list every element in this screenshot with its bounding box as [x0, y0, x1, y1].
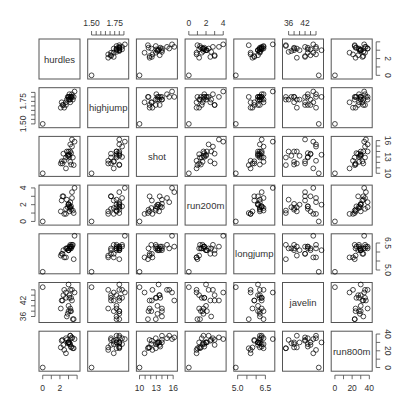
- scatter-panel: [136, 185, 177, 225]
- tick-label: 0: [383, 73, 393, 78]
- diagonal-label-panel: hurdles: [39, 39, 80, 79]
- data-point: [142, 290, 147, 295]
- data-point: [297, 248, 302, 253]
- scatter-panel: [283, 185, 324, 225]
- data-point: [283, 242, 288, 247]
- data-point: [194, 100, 199, 105]
- bottom-x-axis: 101316: [135, 375, 178, 393]
- scatter-panel: [88, 331, 129, 371]
- data-point: [347, 255, 352, 260]
- data-point: [311, 139, 316, 144]
- tick-label: 16: [168, 383, 178, 393]
- data-point: [356, 194, 361, 199]
- left-y-axis: 1.501.75: [18, 92, 35, 132]
- scatter-panel: [88, 136, 129, 176]
- data-point: [333, 171, 338, 176]
- tick-label: 42: [18, 296, 28, 306]
- data-point: [246, 95, 251, 100]
- scatter-panel: [233, 185, 275, 225]
- data-point: [61, 293, 66, 298]
- tick-label: 20: [383, 346, 393, 356]
- right-y-axis: 5.06.5: [376, 237, 393, 276]
- data-point: [137, 365, 142, 370]
- data-point: [122, 290, 127, 295]
- scatter-panel: [136, 88, 177, 128]
- tick-label: 2: [383, 56, 393, 61]
- tick-label: 5.0: [232, 383, 244, 393]
- data-point: [197, 293, 202, 298]
- data-point: [261, 317, 266, 322]
- tick-label: 0: [383, 365, 393, 370]
- scatter-panel: [331, 282, 372, 322]
- tick-label: 20: [347, 383, 357, 393]
- data-point: [89, 219, 94, 224]
- data-point: [204, 303, 209, 308]
- right-y-axis: 02040: [376, 329, 393, 370]
- tick-label: 5.0: [383, 264, 393, 276]
- tick-label: 13: [152, 383, 162, 393]
- data-point: [71, 257, 76, 262]
- data-point: [311, 351, 316, 356]
- data-point: [186, 365, 191, 370]
- data-point: [157, 194, 162, 199]
- data-point: [347, 290, 352, 295]
- data-point: [150, 211, 155, 216]
- data-point: [212, 103, 217, 108]
- scatter-panel: [283, 136, 324, 176]
- data-point: [114, 293, 119, 298]
- scatter-panel: [88, 282, 129, 322]
- data-point: [172, 298, 177, 303]
- data-point: [286, 197, 291, 202]
- tick-label: 36: [284, 18, 294, 28]
- variable-label: longjump: [235, 248, 274, 259]
- data-point: [333, 73, 338, 78]
- data-point: [314, 105, 319, 110]
- data-point: [303, 251, 308, 256]
- top-x-axis: 024: [186, 18, 225, 35]
- scatter-panel: [136, 282, 177, 322]
- bottom-x-axis: 02: [40, 375, 77, 393]
- data-point: [58, 209, 63, 214]
- data-point: [347, 166, 352, 171]
- data-point: [197, 55, 202, 60]
- data-point: [170, 89, 175, 94]
- scatter-panel: [185, 282, 226, 322]
- data-point: [217, 137, 222, 142]
- data-point: [89, 285, 94, 290]
- data-point: [333, 219, 338, 224]
- data-point: [294, 105, 299, 110]
- data-point: [167, 200, 172, 205]
- data-point: [212, 151, 217, 156]
- data-point: [286, 149, 291, 154]
- data-point: [194, 158, 199, 163]
- data-point: [64, 295, 69, 300]
- tick-label: 1.75: [106, 18, 123, 28]
- data-point: [257, 287, 262, 292]
- data-point: [250, 306, 255, 311]
- scatter-panel: [233, 331, 275, 371]
- data-point: [311, 100, 316, 105]
- data-point: [149, 242, 154, 247]
- scatter-panel: [185, 39, 226, 79]
- tick-label: 42: [300, 18, 310, 28]
- data-point: [352, 317, 357, 322]
- tick-label: 0: [333, 383, 338, 393]
- data-point: [117, 137, 122, 142]
- data-point: [358, 303, 363, 308]
- data-point: [259, 137, 264, 142]
- data-point: [40, 122, 45, 127]
- scatter-panel: [39, 185, 80, 225]
- tick-label: 0: [186, 18, 191, 28]
- data-point: [70, 190, 75, 195]
- bottom-x-axis: 5.06.5: [232, 375, 272, 393]
- diagonal-label-panel: run800m: [331, 331, 372, 371]
- top-x-axis: 1.501.75: [83, 18, 124, 35]
- data-point: [217, 335, 222, 340]
- data-point: [149, 198, 154, 203]
- scatter-panel: [136, 233, 177, 274]
- data-point: [120, 287, 125, 292]
- data-point: [111, 298, 116, 303]
- scatter-panel: [233, 136, 275, 176]
- data-point: [316, 365, 321, 370]
- data-point: [150, 287, 155, 292]
